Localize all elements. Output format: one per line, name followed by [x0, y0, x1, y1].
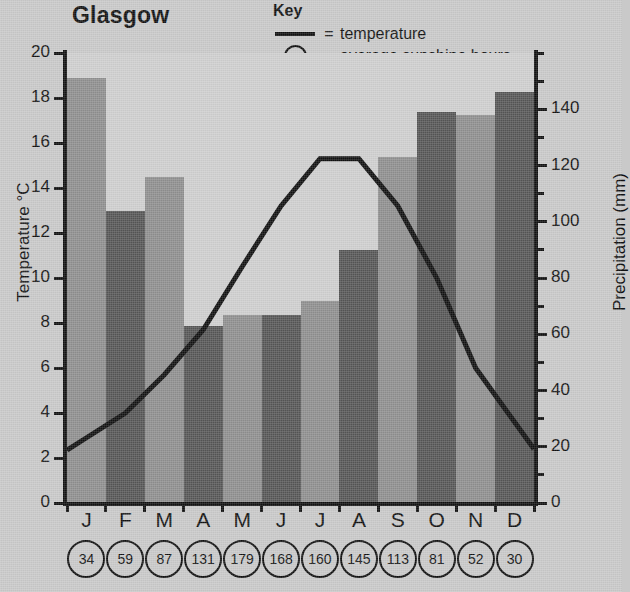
left-axis-tick-label: 14	[31, 177, 50, 197]
right-axis-tick-label: 0	[551, 492, 560, 512]
month-label: O	[417, 508, 456, 532]
line-swatch-icon	[272, 32, 318, 36]
month-label: M	[223, 508, 262, 532]
sunshine-cell: 113	[378, 540, 417, 578]
sunshine-cell: 81	[417, 540, 456, 578]
sunshine-hours-circle: 34	[67, 540, 105, 578]
sunshine-hours-circle: 179	[223, 540, 261, 578]
sunshine-cell: 59	[106, 540, 145, 578]
left-axis-tick-label: 8	[41, 312, 50, 332]
left-axis-tick-label: 2	[41, 447, 50, 467]
month-label: S	[378, 508, 417, 532]
sunshine-hours-circle: 30	[496, 540, 534, 578]
sunshine-cell: 168	[262, 540, 301, 578]
right-axis-tick	[537, 164, 547, 167]
right-axis-tick	[537, 108, 547, 111]
sunshine-hours-circle: 52	[457, 540, 495, 578]
sunshine-cell: 160	[301, 540, 340, 578]
right-axis-tick-label: 40	[551, 380, 570, 400]
left-axis-tick-label: 16	[31, 132, 50, 152]
right-axis-tick	[537, 445, 547, 448]
month-label: M	[145, 508, 184, 532]
right-axis-minor-tick	[537, 192, 544, 195]
sunshine-hours-circle: 113	[379, 540, 417, 578]
left-axis-tick	[54, 187, 64, 190]
right-axis-minor-tick	[537, 248, 544, 251]
month-label: A	[339, 508, 378, 532]
right-axis-minor-tick	[537, 361, 544, 364]
right-axis-tick-label: 140	[551, 98, 579, 118]
right-axis-minor-tick	[537, 305, 544, 308]
month-labels: JFMAMJJASOND	[67, 508, 534, 532]
sunshine-cell: 131	[184, 540, 223, 578]
right-axis-minor-tick	[537, 473, 544, 476]
sunshine-cell: 179	[223, 540, 262, 578]
left-axis-tick	[54, 502, 64, 505]
sunshine-cell: 145	[339, 540, 378, 578]
left-axis-tick-label: 0	[41, 492, 50, 512]
right-axis-tick	[537, 277, 547, 280]
right-axis-tick-label: 20	[551, 436, 570, 456]
month-label: N	[456, 508, 495, 532]
month-label: J	[262, 508, 301, 532]
left-axis-tick	[54, 367, 64, 370]
left-axis-tick	[54, 142, 64, 145]
left-axis-tick-label: 20	[31, 42, 50, 62]
legend-equals-sign: =	[318, 25, 340, 43]
left-axis-tick-label: 18	[31, 87, 50, 107]
left-axis-tick-label: 6	[41, 357, 50, 377]
right-axis-tick-label: 120	[551, 155, 579, 175]
legend-heading: Key	[273, 2, 511, 20]
right-axis-minor-tick	[537, 80, 544, 83]
plot-area	[67, 53, 534, 503]
sunshine-hours-circle: 87	[145, 540, 183, 578]
right-axis-tick-label: 60	[551, 323, 570, 343]
sunshine-cell: 87	[145, 540, 184, 578]
month-label: J	[301, 508, 340, 532]
left-axis-tick	[54, 277, 64, 280]
left-axis-tick	[54, 412, 64, 415]
sunshine-hours-circle: 168	[262, 540, 300, 578]
sunshine-cell: 30	[495, 540, 534, 578]
sunshine-hours-circle: 59	[106, 540, 144, 578]
right-axis-tick	[537, 389, 547, 392]
temperature-line	[67, 53, 534, 503]
sunshine-cell: 52	[456, 540, 495, 578]
sunshine-cell: 34	[67, 540, 106, 578]
sunshine-hours-circle: 131	[184, 540, 222, 578]
left-axis-tick	[54, 232, 64, 235]
right-axis-minor-tick	[537, 417, 544, 420]
right-axis-tick	[537, 333, 547, 336]
right-axis-tick	[537, 502, 547, 505]
sunshine-hours-circle: 160	[301, 540, 339, 578]
right-axis-label: Precipitation (mm)	[610, 147, 630, 337]
left-axis-tick	[54, 97, 64, 100]
sunshine-hours-row: 345987131179168160145113815230	[67, 540, 534, 578]
left-axis-tick	[54, 52, 64, 55]
left-axis-tick-label: 10	[31, 267, 50, 287]
left-axis-tick-label: 12	[31, 222, 50, 242]
legend-label-temperature: temperature	[340, 25, 426, 43]
month-label: A	[184, 508, 223, 532]
page-title: Glasgow	[72, 2, 169, 29]
sunshine-hours-circle: 145	[340, 540, 378, 578]
left-axis-tick-label: 4	[41, 402, 50, 422]
right-axis-tick-label: 80	[551, 267, 570, 287]
legend-item-temperature: = temperature	[272, 23, 511, 45]
month-label: D	[495, 508, 534, 532]
right-axis-minor-tick	[537, 52, 544, 55]
right-axis-minor-tick	[537, 136, 544, 139]
month-label: J	[67, 508, 106, 532]
left-axis-tick	[54, 457, 64, 460]
right-axis-tick-label: 100	[551, 211, 579, 231]
left-axis-tick	[54, 322, 64, 325]
month-label: F	[106, 508, 145, 532]
sunshine-hours-circle: 81	[418, 540, 456, 578]
right-axis-tick	[537, 220, 547, 223]
